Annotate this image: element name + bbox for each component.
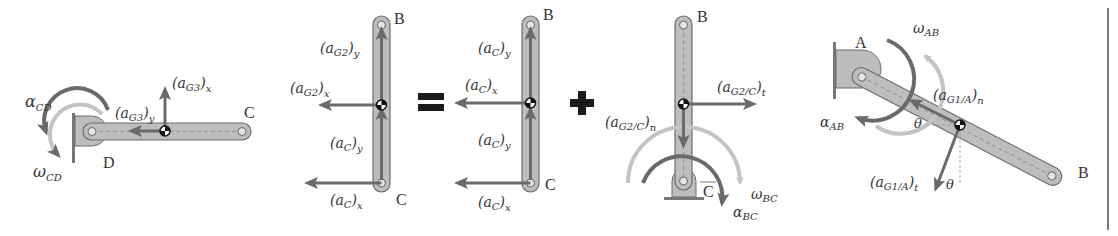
point-label-C: C [244, 104, 255, 121]
center-of-mass-G2 [679, 99, 689, 109]
label-aG2C-t: (aG2/C)t [717, 79, 767, 98]
pin-B [527, 21, 535, 29]
label-aC-y-bottom: (aC)y [478, 132, 511, 151]
label-omega-AB: ωAB [913, 20, 939, 38]
point-label-C: C [545, 176, 556, 193]
label-omega-BC: ωBC [751, 186, 778, 204]
label-aC-y-top: (aC)y [478, 40, 511, 59]
plus-operator [570, 91, 594, 115]
label-aG2C-n: (aG2/C)n [605, 114, 656, 133]
point-label-C: C [396, 191, 407, 208]
panel-link-AB: A B ωAB αAB (aG1/A)n (aG1/A)t θ θ [820, 20, 1089, 193]
label-theta-1: θ [914, 116, 922, 131]
point-label-B: B [1078, 164, 1089, 181]
label-alpha-CD: αCD [25, 92, 51, 113]
label-aG3-y: (aG3)y [115, 105, 155, 124]
panel-link-CD: αCD ωCD D C (aG3)x (aG3)y [25, 75, 255, 183]
center-of-mass-G1 [955, 120, 965, 130]
label-theta-2: θ [946, 177, 954, 192]
point-label-B: B [543, 6, 554, 23]
label-aG1A-t: (aG1/A)t [870, 174, 919, 193]
equals-operator [418, 93, 444, 111]
label-omega-CD: ωCD [33, 162, 62, 183]
label-alpha-BC: αBC [733, 204, 758, 222]
pin-C [238, 128, 246, 136]
label-aC-x-bottom: (aC)x [478, 194, 511, 213]
center-of-mass-G2 [526, 98, 536, 108]
center-of-mass-G2 [377, 100, 387, 110]
point-label-B: B [394, 10, 405, 27]
pin-D [88, 128, 96, 136]
kinematics-diagram: αCD ωCD D C (aG3)x (aG3)y B C (aG2)y (aG… [0, 0, 1118, 236]
pin-C [680, 177, 688, 185]
label-aG3-x: (aG3)x [172, 75, 212, 94]
panel-link-BC-translation: B C (aC)y (aC)x (aC)y (aC)x [458, 6, 556, 213]
label-aC-y: (aC)y [330, 135, 363, 154]
point-label-D: D [103, 154, 115, 171]
point-label-B: B [697, 8, 708, 25]
label-aC-x-mid: (aC)x [465, 77, 498, 96]
center-of-mass-G3 [160, 126, 170, 136]
panel-link-BC-rotation: B C (aG2/C)t (aG2/C)n ωBC αBC [605, 8, 778, 222]
pin-B [680, 21, 688, 29]
label-aG2-x: (aG2)x [290, 80, 330, 99]
pin-B [378, 21, 386, 29]
label-alpha-AB: αAB [820, 114, 844, 132]
label-aC-x: (aC)x [330, 192, 363, 211]
label-aG2-y: (aG2)y [320, 40, 360, 59]
panel-link-BC-total: B C (aG2)y (aG2)x (aC)y (aC)x [290, 10, 407, 211]
point-label-A: A [855, 34, 867, 51]
point-label-C: C [703, 183, 714, 200]
